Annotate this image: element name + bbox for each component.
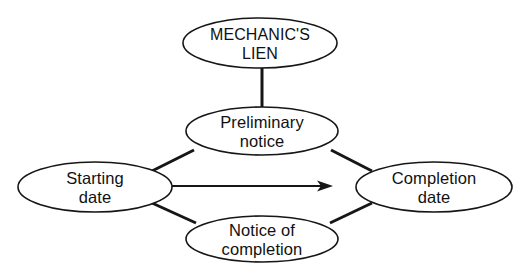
mechanics-lien-flow-diagram: MECHANIC'S LIEN Preliminary notice Start… bbox=[0, 0, 528, 276]
node-preliminary-notice-label: Preliminary bbox=[220, 113, 304, 131]
node-mechanics-lien-label-line2: LIEN bbox=[242, 45, 278, 62]
node-starting-date-label-line2: date bbox=[79, 188, 112, 206]
arrow-starting-to-completion bbox=[172, 181, 333, 192]
connector-preliminary-to-completion bbox=[331, 150, 372, 171]
node-completion-date-label: Completion bbox=[392, 169, 476, 187]
node-notice-of-completion-label: Notice of bbox=[229, 221, 295, 239]
node-mechanics-lien[interactable]: MECHANIC'S LIEN bbox=[183, 18, 337, 68]
node-preliminary-notice-label-line2: notice bbox=[240, 132, 285, 150]
node-notice-of-completion[interactable]: Notice of completion bbox=[186, 216, 338, 262]
node-completion-date[interactable]: Completion date bbox=[356, 162, 512, 212]
node-notice-of-completion-label-line2: completion bbox=[222, 240, 303, 258]
diagram-canvas: MECHANIC'S LIEN Preliminary notice Start… bbox=[0, 0, 528, 276]
connector-notice-to-completion bbox=[330, 203, 372, 223]
node-completion-date-label-line2: date bbox=[418, 188, 451, 206]
connector-starting-to-notice bbox=[152, 203, 196, 223]
node-mechanics-lien-label: MECHANIC'S bbox=[210, 26, 310, 43]
connector-starting-to-preliminary bbox=[152, 150, 194, 171]
node-starting-date-label: Starting bbox=[66, 169, 124, 187]
node-starting-date[interactable]: Starting date bbox=[18, 162, 172, 212]
node-preliminary-notice[interactable]: Preliminary notice bbox=[186, 107, 338, 155]
